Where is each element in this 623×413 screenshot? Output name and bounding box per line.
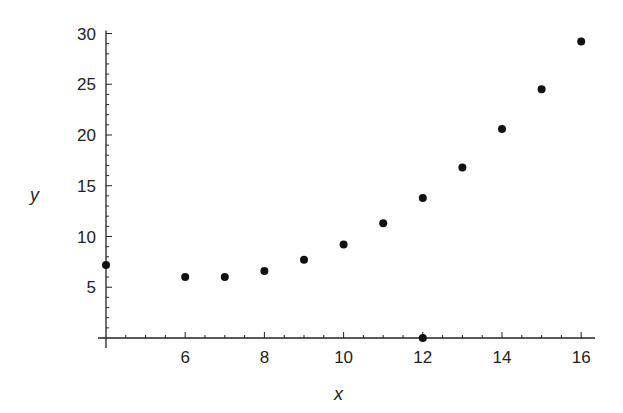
data-points — [102, 38, 585, 342]
x-axis-title: x — [333, 384, 344, 404]
data-point — [181, 273, 189, 281]
y-tick-label: 25 — [77, 75, 96, 94]
y-tick-label: 5 — [87, 278, 96, 297]
data-point — [221, 273, 229, 281]
data-point — [577, 38, 585, 46]
y-tick-label: 20 — [77, 126, 96, 145]
x-tick-label: 6 — [180, 348, 189, 367]
y-tick-label: 15 — [77, 177, 96, 196]
data-point — [379, 219, 387, 227]
data-point — [340, 241, 348, 249]
x-tick-label: 12 — [413, 348, 432, 367]
x-tick-label: 16 — [572, 348, 591, 367]
y-tick-label: 10 — [77, 228, 96, 247]
data-point — [419, 194, 427, 202]
data-point — [538, 85, 546, 93]
x-tick-label: 10 — [334, 348, 353, 367]
data-point — [102, 261, 110, 269]
scatter-chart: 51015202530 6810121416 y x — [0, 0, 623, 413]
data-point — [498, 125, 506, 133]
data-point — [260, 267, 268, 275]
x-tick-label: 8 — [260, 348, 269, 367]
data-point — [458, 163, 466, 171]
y-axis: 51015202530 — [77, 25, 112, 349]
y-tick-label: 30 — [77, 25, 96, 44]
x-tick-label: 14 — [493, 348, 512, 367]
data-point — [300, 256, 308, 264]
y-axis-title: y — [28, 185, 40, 205]
x-axis: 6810121416 — [98, 332, 595, 367]
data-point — [419, 334, 427, 342]
